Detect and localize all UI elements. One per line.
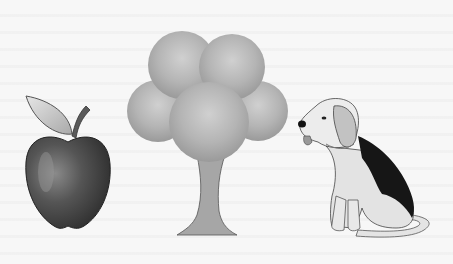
apple-icon bbox=[20, 92, 115, 232]
beagle-dog-icon bbox=[296, 96, 436, 240]
scanned-page bbox=[0, 0, 453, 264]
apple-figure bbox=[20, 92, 115, 232]
tree-icon bbox=[125, 25, 290, 240]
tree-figure bbox=[125, 25, 290, 240]
dog-figure bbox=[296, 96, 436, 240]
